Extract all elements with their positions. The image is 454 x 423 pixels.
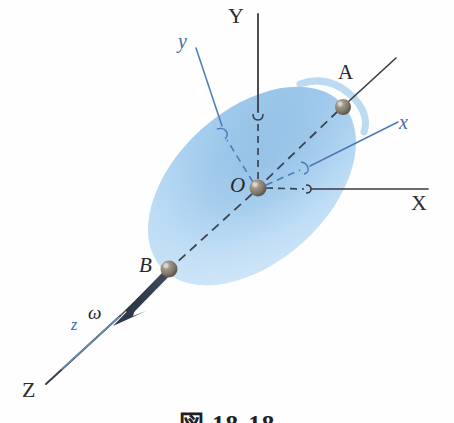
point-marker-B	[161, 261, 178, 278]
axis-label-Z: Z	[22, 379, 35, 401]
point-marker-A	[335, 99, 351, 115]
figure-container: X Y Z x y z O A B ω 図 18-18	[0, 0, 454, 423]
axis-label-Y: Y	[228, 5, 244, 27]
axis-label-x-body: x	[399, 112, 408, 132]
point-label-B: B	[139, 255, 152, 276]
axis-label-X: X	[411, 192, 427, 214]
omega-label: ω	[88, 303, 101, 322]
point-marker-O	[250, 180, 267, 197]
axis-label-y-body: y	[178, 31, 187, 51]
omega-vector-arrow	[113, 270, 170, 326]
figure-caption: 図 18-18	[0, 404, 454, 423]
axis-label-z-body: z	[71, 317, 77, 333]
point-label-O: O	[230, 175, 245, 196]
point-label-A: A	[338, 62, 353, 83]
diagram-canvas	[0, 0, 454, 423]
